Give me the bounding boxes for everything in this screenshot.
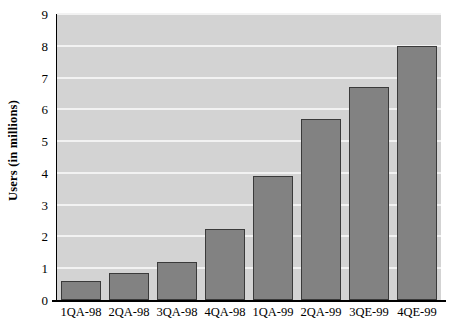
bar-3QE-99 <box>349 87 389 300</box>
y-axis-title-label: Users (in millions) <box>7 99 22 200</box>
bar-4QE-99 <box>397 46 437 300</box>
x-axis-tick-4QE-99: 4QE-99 <box>397 306 437 319</box>
y-axis-tick-8: 8 <box>42 39 49 52</box>
gridline <box>57 13 441 15</box>
x-axis-tick-4QA-98: 4QA-98 <box>205 306 246 319</box>
x-axis-line <box>52 300 446 302</box>
y-axis-tick-labels: 0123456789 <box>28 0 52 333</box>
bar-3QA-98 <box>157 262 197 300</box>
bar-1QA-99 <box>253 176 293 300</box>
bar-1QA-98 <box>61 281 101 300</box>
y-axis-tick-4: 4 <box>42 166 49 179</box>
x-axis-tick-3QE-99: 3QE-99 <box>349 306 389 319</box>
x-axis-tick-labels: 1QA-982QA-983QA-984QA-981QA-992QA-993QE-… <box>57 304 441 330</box>
y-axis-tick-7: 7 <box>42 71 49 84</box>
y-axis-line <box>56 14 58 300</box>
y-axis-tick-6: 6 <box>42 103 49 116</box>
plot-area <box>57 14 441 300</box>
gridline <box>57 45 441 47</box>
bar-2QA-98 <box>109 273 149 300</box>
x-axis-tick-1QA-98: 1QA-98 <box>61 306 102 319</box>
y-axis-tick-1: 1 <box>42 262 49 275</box>
x-axis-tick-2QA-98: 2QA-98 <box>109 306 150 319</box>
y-axis-title: Users (in millions) <box>0 0 28 300</box>
gridline <box>57 77 441 79</box>
y-axis-tick-5: 5 <box>42 135 49 148</box>
x-axis-tick-2QA-99: 2QA-99 <box>301 306 342 319</box>
y-axis-tick-9: 9 <box>42 8 49 21</box>
y-axis-tick-2: 2 <box>42 230 49 243</box>
bar-2QA-99 <box>301 119 341 300</box>
y-axis-tick-0: 0 <box>42 294 49 307</box>
x-axis-tick-3QA-98: 3QA-98 <box>157 306 198 319</box>
y-axis-tick-3: 3 <box>42 198 49 211</box>
x-axis-tick-1QA-99: 1QA-99 <box>253 306 294 319</box>
bar-4QA-98 <box>205 229 245 301</box>
bar-chart: Users (in millions) 0123456789 1QA-982QA… <box>0 0 462 333</box>
